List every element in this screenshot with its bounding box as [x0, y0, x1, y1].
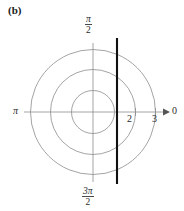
radial-tick-label-3: 3 [152, 113, 157, 124]
fraction-pi-over-2: π 2 [85, 14, 92, 35]
fraction-denominator: 2 [85, 25, 92, 35]
axis-label-pi-over-2: π 2 [85, 14, 92, 35]
fraction-3pi-over-2: 3π 2 [82, 186, 94, 207]
axis-arrowhead-zero [163, 109, 170, 116]
axis-label-zero: 0 [172, 105, 177, 116]
fraction-denominator: 2 [82, 197, 94, 207]
fraction-numerator: π [85, 14, 92, 25]
fraction-numerator: 3π [82, 186, 94, 197]
axis-label-3pi-over-2: 3π 2 [82, 186, 94, 207]
polar-figure: (b) π 2 3π 2 π 0 2 3 [0, 0, 184, 211]
axis-label-pi: π [13, 105, 18, 116]
polar-plot-canvas [0, 0, 184, 211]
radial-tick-label-2: 2 [127, 113, 132, 124]
